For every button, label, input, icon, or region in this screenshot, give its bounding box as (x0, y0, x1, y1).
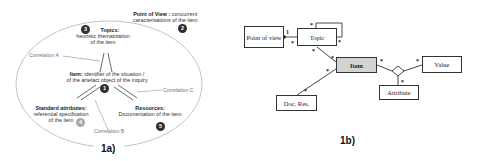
topics-label: Topics: heuristic thematization of the i… (72, 27, 134, 46)
figure-1b-lines (240, 0, 478, 161)
badge-2: 2 (178, 24, 187, 33)
mult-star: * (331, 55, 334, 61)
figure-1b: Point of view Topic Item Value Attribute… (240, 0, 478, 161)
class-doc-res: Doc. Res. (276, 95, 317, 111)
mult-star: * (291, 40, 294, 46)
figure-1a: Point of View : concurrent caracterisati… (0, 0, 240, 161)
correlation-c-label: Correlation C (163, 87, 194, 93)
mult-star: * (310, 22, 313, 28)
class-topic: Topic (297, 28, 337, 46)
badge-5: 5 (156, 122, 165, 131)
badge-4: 4 (76, 118, 85, 127)
point-of-view-label: Point of View : concurrent caracterisati… (133, 11, 197, 23)
class-attribute: Attribute (379, 85, 419, 100)
resources-label: Resources: Documentation of the item (115, 105, 185, 117)
badge-1: 1 (100, 84, 109, 93)
association-diamond (392, 66, 404, 76)
mult-star: * (338, 39, 341, 45)
mult-star: * (401, 79, 404, 85)
mult-pov-one: 1 (286, 29, 289, 35)
class-point-of-view: Point of view (244, 26, 284, 48)
mult-star: * (380, 58, 383, 64)
caption-1a: 1a) (101, 143, 115, 154)
correlation-b-label: Correlation B (94, 128, 124, 134)
item-label: Item: identifier of the situation / of t… (62, 71, 152, 83)
mult-star: * (312, 48, 315, 54)
mult-star: * (326, 68, 329, 74)
correlation-a-label: Correlation A (29, 52, 59, 58)
caption-1b: 1b) (340, 135, 355, 146)
class-item: Item (336, 57, 377, 73)
mult-star: * (304, 88, 307, 94)
mult-star: * (416, 58, 419, 64)
class-value: Value (422, 56, 462, 73)
